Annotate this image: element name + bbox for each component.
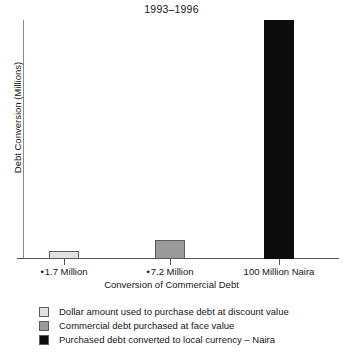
x-tick-2 (170, 259, 171, 265)
x-tick-1 (64, 259, 65, 265)
legend-item-discount-value: Dollar amount used to purchase debt at d… (39, 305, 339, 318)
legend-label-face-value: Commercial debt purchased at face value (59, 320, 234, 331)
legend-label-local-currency-naira: Purchased debt converted to local curren… (59, 334, 275, 345)
chart-title: 1993–1996 (0, 3, 343, 15)
x-tick-label-3: 100 Million Naira (229, 266, 329, 277)
y-axis-title: Debt Conversion (Millions) (12, 43, 23, 193)
x-tick-3 (279, 259, 280, 265)
legend-label-discount-value: Dollar amount used to purchase debt at d… (59, 306, 289, 317)
legend-swatch-discount-value (39, 307, 49, 317)
legend-swatch-face-value (39, 321, 49, 331)
x-tick-label-3-text: 100 Million Naira (244, 266, 315, 277)
chart-legend: Dollar amount used to purchase debt at d… (39, 305, 339, 347)
bar-commercial-debt-face-value (155, 240, 185, 259)
legend-swatch-local-currency-naira (39, 335, 49, 345)
bullet-marker-1: • (40, 266, 43, 277)
bullet-marker-2: • (146, 266, 149, 277)
x-axis-title: Conversion of Commercial Debt (0, 279, 343, 290)
legend-item-local-currency-naira: Purchased debt converted to local curren… (39, 333, 339, 346)
bar-dollar-amount-discount-value (49, 251, 79, 259)
x-tick-label-2: •7.2 Million (120, 266, 220, 277)
x-tick-label-1-text: 1.7 Million (45, 266, 88, 277)
x-tick-label-2-text: 7.2 Million (151, 266, 194, 277)
legend-item-face-value: Commercial debt purchased at face value (39, 319, 339, 332)
chart-figure: 1993–1996 Debt Conversion (Millions) •1.… (0, 0, 343, 364)
y-axis-line (23, 20, 24, 259)
bar-converted-local-currency-naira (264, 20, 294, 259)
x-tick-label-1: •1.7 Million (14, 266, 114, 277)
